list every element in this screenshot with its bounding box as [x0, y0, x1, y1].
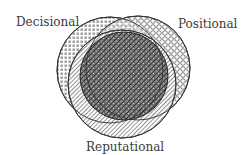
reputational-label: Reputational — [86, 141, 164, 153]
intersection-region — [80, 32, 168, 120]
positional-label: Positional — [178, 18, 237, 30]
decisional-label: Decisional — [16, 16, 79, 28]
